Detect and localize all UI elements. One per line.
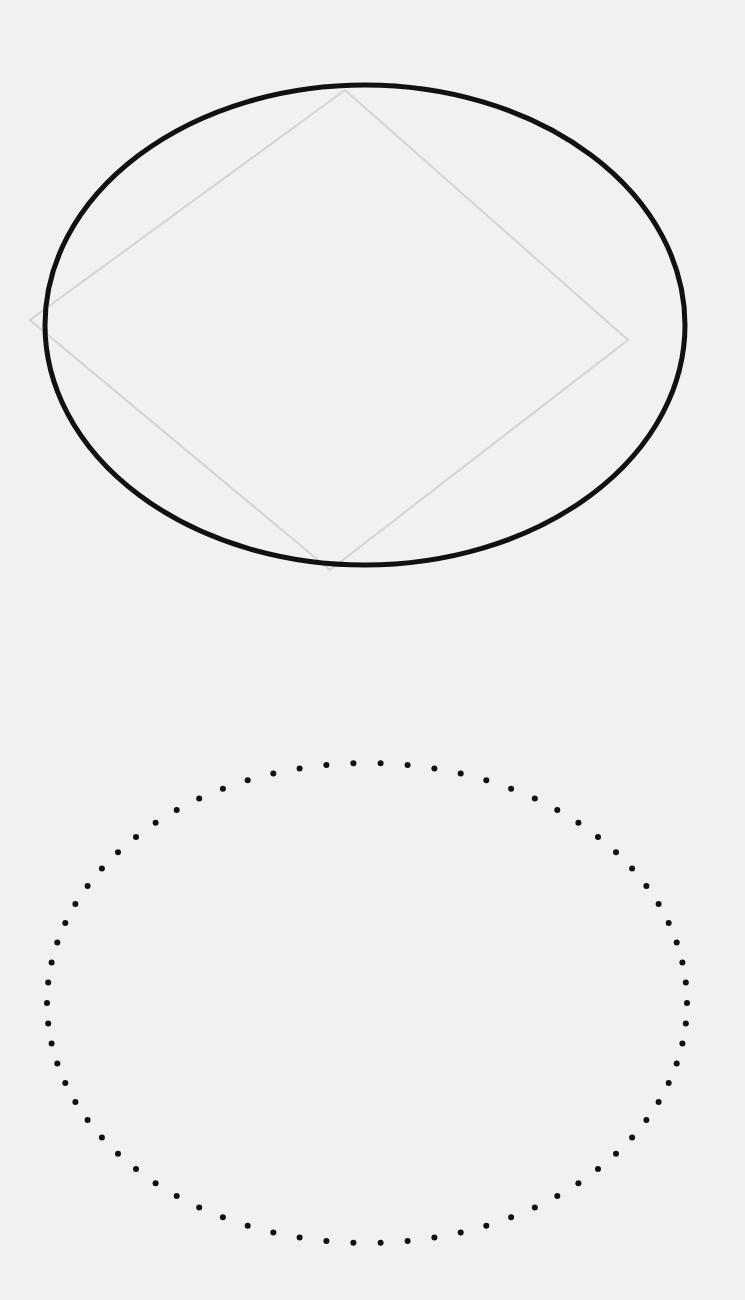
ellipse-dot (679, 959, 685, 965)
ellipse-dot (666, 1080, 672, 1086)
ellipse-dot (679, 1041, 685, 1047)
ellipse-dot (666, 920, 672, 926)
ellipse-dot (554, 1193, 560, 1199)
ellipse-dot (270, 1230, 276, 1236)
ellipse-dot (220, 786, 226, 792)
ellipse-dot (133, 834, 139, 840)
ellipse-dot (458, 1230, 464, 1236)
ellipse-dot (458, 771, 464, 777)
ellipse-dot (629, 866, 635, 872)
ellipse-dot (575, 1180, 581, 1186)
ellipse-dot (483, 1223, 489, 1229)
ellipse-dot (133, 1166, 139, 1172)
ellipse-dot (99, 1134, 105, 1140)
ellipse-dot (45, 980, 51, 986)
ellipse-dot (153, 1180, 159, 1186)
ellipse-dot (431, 1235, 437, 1241)
ellipse-dot (554, 807, 560, 813)
ellipse-dot (49, 1041, 55, 1047)
solid-ellipse (45, 85, 685, 565)
ellipse-dot (44, 1000, 50, 1006)
ellipse-dot (643, 1117, 649, 1123)
ellipse-dot (54, 940, 60, 946)
ellipse-dot (72, 1099, 78, 1105)
ellipse-dot (174, 807, 180, 813)
ellipse-dot (220, 1214, 226, 1220)
ellipse-dot (595, 834, 601, 840)
ellipse-dot (297, 1235, 303, 1241)
ellipse-dot (674, 940, 680, 946)
ellipse-dot (684, 1000, 690, 1006)
ellipse-dot (49, 959, 55, 965)
dotted-ellipse (44, 760, 690, 1246)
ellipse-dot (656, 901, 662, 907)
ellipse-dot (656, 1099, 662, 1105)
ellipse-dot (350, 760, 356, 766)
ellipse-dot (532, 1204, 538, 1210)
ellipse-dot (153, 820, 159, 826)
ellipse-dot (643, 883, 649, 889)
ellipse-dot (405, 1238, 411, 1244)
ellipse-dot (483, 777, 489, 783)
ellipse-dot (62, 920, 68, 926)
ellipse-dot (297, 765, 303, 771)
ellipse-dot (508, 1214, 514, 1220)
ellipse-dot (629, 1134, 635, 1140)
ellipse-dot (508, 786, 514, 792)
ellipse-dot (532, 796, 538, 802)
ellipse-dot (115, 849, 121, 855)
ellipse-dot (613, 1151, 619, 1157)
ellipse-dot (85, 1117, 91, 1123)
ellipse-dot (85, 883, 91, 889)
ellipse-dot (245, 777, 251, 783)
ellipse-dot (196, 796, 202, 802)
ellipse-dot (72, 901, 78, 907)
ellipse-dot (115, 1151, 121, 1157)
faint-diamond-shape (30, 90, 628, 570)
ellipse-dot (613, 849, 619, 855)
ellipse-dot (62, 1080, 68, 1086)
paper-sheet (0, 0, 745, 1300)
ellipse-dot (270, 771, 276, 777)
ellipse-dot (99, 866, 105, 872)
ellipse-dot (405, 762, 411, 768)
ellipse-dot (196, 1204, 202, 1210)
ellipse-dot (683, 980, 689, 986)
ellipse-dot (575, 820, 581, 826)
ellipse-dot (378, 760, 384, 766)
ellipse-dot (245, 1223, 251, 1229)
ellipse-dot (45, 1020, 51, 1026)
ellipse-dot (323, 1238, 329, 1244)
ellipse-dot (431, 765, 437, 771)
ellipse-dot (350, 1240, 356, 1246)
ellipse-dot (674, 1061, 680, 1067)
ellipse-dot (323, 762, 329, 768)
ellipse-dot (683, 1020, 689, 1026)
ellipse-dot (54, 1061, 60, 1067)
ellipse-dot (595, 1166, 601, 1172)
ellipse-dot (174, 1193, 180, 1199)
drawing-canvas (0, 0, 745, 1300)
ellipse-dot (378, 1240, 384, 1246)
